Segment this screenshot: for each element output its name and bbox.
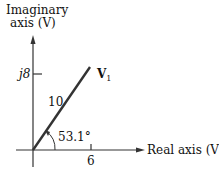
- vector-label-main: V: [97, 67, 106, 81]
- vector-label: V1: [97, 68, 111, 85]
- angle-label: 53.1°: [58, 131, 91, 144]
- imaginary-axis-arrow-icon: [31, 35, 36, 44]
- magnitude-label: 10: [48, 96, 63, 109]
- vector-label-subscript: 1: [106, 74, 111, 83]
- real-axis-arrow-icon: [136, 148, 145, 153]
- x-axis-label: Real axis (V): [147, 144, 219, 157]
- y-axis-label-line2: axis (V): [10, 17, 56, 30]
- y-tick-label: j8: [19, 68, 30, 81]
- x-tick-label: 6: [87, 155, 95, 168]
